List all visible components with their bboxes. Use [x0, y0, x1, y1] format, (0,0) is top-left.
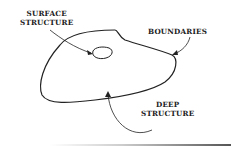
boundaries-arrowhead-icon	[172, 50, 178, 55]
deep-structure-label: DEEP STRUCTURE	[141, 101, 194, 118]
surface-arrowhead-icon	[87, 50, 93, 55]
boundaries-label-text: BOUNDARIES	[148, 28, 207, 37]
boundaries-label: BOUNDARIES	[148, 28, 207, 37]
deep-arrowhead-icon	[105, 91, 111, 97]
surface-structure-label: SURFACE STRUCTURE	[20, 10, 73, 27]
page-edge-shadow	[50, 144, 231, 146]
deep-label-line2: STRUCTURE	[141, 110, 194, 119]
surface-label-line2: STRUCTURE	[20, 19, 73, 28]
surface-structure-blob	[93, 47, 112, 59]
